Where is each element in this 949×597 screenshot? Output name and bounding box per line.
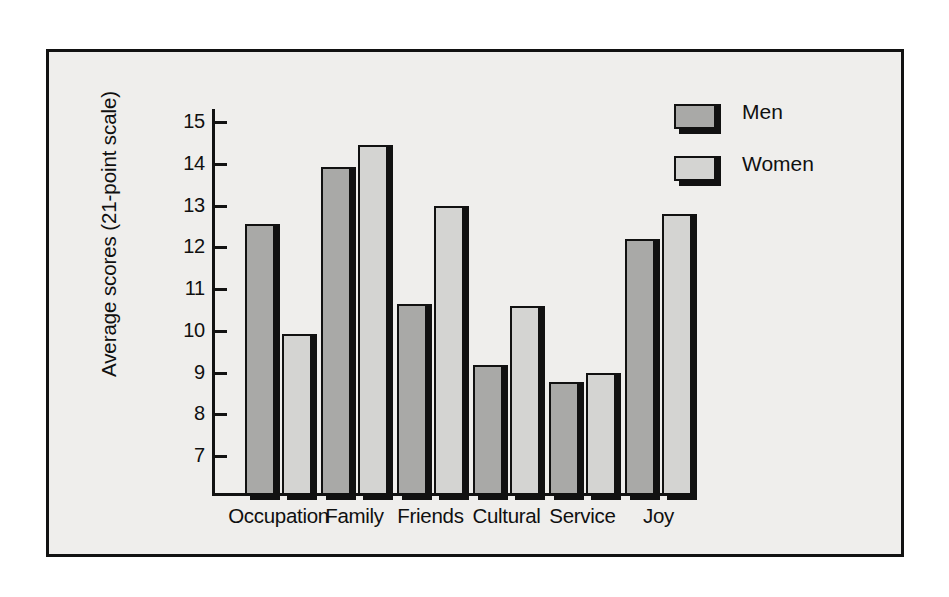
y-axis-tick-label-text: 13 <box>159 195 205 215</box>
bar-women-occupation <box>282 334 312 495</box>
plot-area: 789101112131415 Average scores (21-point… <box>49 52 901 554</box>
legend-label-men: Men <box>742 100 783 124</box>
y-axis-tick <box>215 330 227 333</box>
bar-women-family <box>358 145 388 495</box>
y-axis-tick <box>215 413 227 416</box>
y-axis-tick-label: 13 <box>159 195 205 215</box>
y-axis-tick-label: 10 <box>159 320 205 340</box>
bar-men-occupation <box>245 224 275 495</box>
y-axis-tick-label: 15 <box>159 111 205 131</box>
y-axis-tick <box>215 288 227 291</box>
y-axis-tick-label-text: 8 <box>159 403 205 423</box>
y-axis-tick-label-text: 11 <box>159 278 205 298</box>
y-axis-tick <box>215 372 227 375</box>
y-axis-tick-label: 8 <box>159 403 205 423</box>
chart-panel: 789101112131415 Average scores (21-point… <box>46 49 904 557</box>
bar-women-friends <box>434 206 464 496</box>
bar-men-friends <box>397 304 427 495</box>
y-axis-tick-label: 12 <box>159 236 205 256</box>
bar-women-cultural <box>510 306 540 495</box>
y-axis-tick-label-text: 9 <box>159 362 205 382</box>
y-axis-title: Average scores (21-point scale) <box>97 54 121 414</box>
bar-men-service <box>549 382 579 495</box>
y-axis-tick <box>215 205 227 208</box>
x-axis-label-joy: Joy <box>589 504 729 528</box>
y-axis-tick <box>215 246 227 249</box>
y-axis-line <box>212 109 215 496</box>
y-axis-tick <box>215 121 227 124</box>
y-axis-tick-label-text: 10 <box>159 320 205 340</box>
legend-swatch-men <box>674 104 716 129</box>
y-axis-tick-label: 14 <box>159 153 205 173</box>
bar-men-family <box>321 167 351 495</box>
y-axis-tick <box>215 163 227 166</box>
y-axis-tick-label-text: 15 <box>159 111 205 131</box>
bar-men-joy <box>625 239 655 495</box>
y-axis-tick <box>215 455 227 458</box>
y-axis-tick-label: 9 <box>159 362 205 382</box>
legend-label-women: Women <box>742 152 814 176</box>
y-axis-tick-label-text: 14 <box>159 153 205 173</box>
legend-swatch-women <box>674 156 716 181</box>
bar-men-cultural <box>473 365 503 495</box>
y-axis-tick-label: 11 <box>159 278 205 298</box>
y-axis-tick-label-text: 7 <box>159 445 205 465</box>
bar-women-joy <box>662 214 692 495</box>
bar-women-service <box>586 373 616 496</box>
y-axis-tick-label-text: 12 <box>159 236 205 256</box>
chart-figure: 789101112131415 Average scores (21-point… <box>0 0 949 597</box>
y-axis-tick-label: 7 <box>159 445 205 465</box>
